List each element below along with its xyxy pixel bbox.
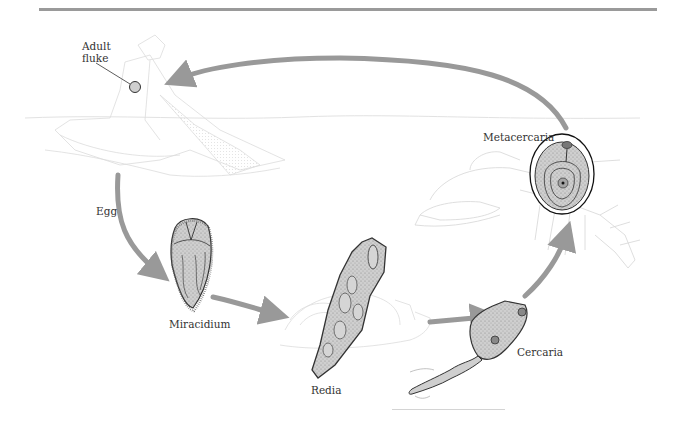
adult-fluke-label-line2: fluke [82,52,111,64]
life-cycle-diagram: Adult fluke Egg Miracidium Redia Cercari… [0,0,680,426]
miracidium-illustration [171,219,212,311]
arrow-adult-to-miracidium [117,175,158,272]
metacercaria-illustration [530,134,594,214]
water-surface-line [25,116,640,119]
egg-label: Egg [96,205,117,217]
metacercaria-label: Metacercaria [483,131,554,143]
redia-illustration [312,238,386,378]
human-host-sketch [45,35,285,176]
redia-label: Redia [311,384,341,396]
arrow-cercaria-to-metacercaria [525,235,566,296]
adult-fluke-label: Adult fluke [82,40,111,64]
miracidium-label: Miracidium [169,318,230,330]
cercaria-illustration [409,301,527,398]
adult-fluke-marker [96,63,141,93]
arrow-miracidium-to-redia [213,297,275,314]
adult-fluke-label-line1: Adult [82,40,111,52]
crayfish-host-sketch [415,152,640,268]
cercaria-label: Cercaria [517,346,563,358]
